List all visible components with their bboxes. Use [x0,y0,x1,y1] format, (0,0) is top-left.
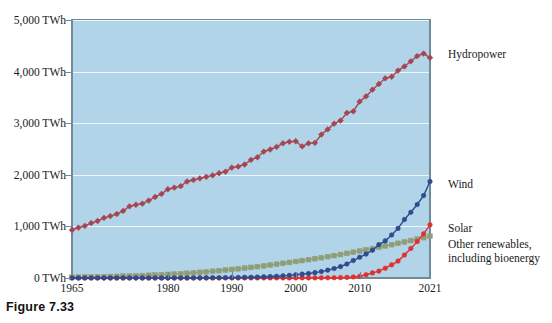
series-label-solar: Solar [448,222,472,236]
x-tick-mark [360,272,361,278]
x-tick-mark [296,272,297,278]
x-tick-mark [232,272,233,278]
y-tick-mark [64,278,71,279]
x-tick-mark [168,272,169,278]
y-tick-mark [64,72,71,73]
y-tick-mark [64,123,71,124]
figure-caption: Figure 7.33 [6,300,74,314]
figure-container: 0 TWh1,000 TWh2,000 TWh3,000 TWh4,000 TW… [0,0,552,323]
series-solar [70,223,433,281]
series-label-hydropower: Hydropower [448,48,506,62]
y-tick-mark [64,175,71,176]
series-hydropower [69,51,433,233]
series-label-other-renewables: Other renewables,including bioenergy [448,238,540,265]
y-tick-mark [64,20,71,21]
y-tick-mark [64,226,71,227]
series-label-wind: Wind [448,178,473,192]
